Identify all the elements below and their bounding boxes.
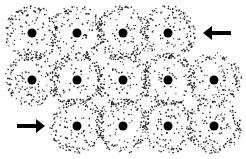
- electron-dot: [150, 63, 151, 64]
- electron-dot: [56, 45, 58, 47]
- electron-dot: [184, 19, 186, 21]
- electron-dot: [180, 13, 181, 14]
- electron-dot: [110, 18, 111, 19]
- electron-dot: [92, 109, 93, 110]
- electron-dot: [202, 113, 204, 115]
- electron-dot: [120, 44, 121, 45]
- electron-dot: [68, 146, 70, 148]
- electron-dot: [199, 135, 201, 137]
- electron-dot: [171, 44, 172, 45]
- electron-dot: [65, 103, 66, 104]
- electron-dot: [61, 65, 62, 66]
- electron-dot: [132, 104, 133, 105]
- electron-dot: [155, 25, 157, 27]
- electron-dot: [219, 133, 221, 135]
- electron-dot: [240, 76, 242, 78]
- electron-dot: [161, 134, 163, 136]
- electron-dot: [102, 115, 103, 116]
- electron-dot: [67, 20, 68, 21]
- electron-dot: [116, 19, 117, 20]
- electron-dot: [129, 122, 130, 123]
- electron-dot: [103, 113, 105, 115]
- electron-dot: [190, 137, 192, 139]
- electron-dot: [239, 119, 241, 121]
- electron-dot: [98, 66, 100, 68]
- electron-dot: [74, 41, 75, 42]
- electron-dot: [26, 95, 28, 97]
- electron-dot: [115, 6, 116, 7]
- electron-dot: [74, 6, 75, 7]
- electron-dot: [103, 15, 105, 17]
- electron-dot: [156, 106, 157, 107]
- electron-dot: [102, 38, 103, 39]
- electron-dot: [140, 99, 141, 100]
- electron-dot: [167, 109, 169, 111]
- electron-dot: [143, 79, 144, 80]
- electron-dot: [123, 105, 124, 106]
- electron-dot: [146, 22, 147, 23]
- electron-dot: [73, 100, 75, 102]
- electron-dot: [22, 77, 24, 79]
- atom: [140, 5, 195, 61]
- electron-dot: [83, 35, 84, 36]
- electron-dot: [115, 128, 117, 130]
- electron-dot: [110, 124, 112, 126]
- electron-dot: [160, 81, 162, 83]
- electron-dot: [180, 143, 182, 145]
- electron-dot: [182, 64, 184, 66]
- electron-dot: [58, 99, 60, 101]
- electron-dot: [64, 8, 65, 9]
- electron-dot: [13, 50, 14, 51]
- electron-dot: [140, 141, 141, 142]
- electron-dot: [59, 32, 60, 33]
- electron-dot: [124, 40, 126, 42]
- electron-dot: [146, 85, 147, 86]
- electron-dot: [43, 38, 44, 39]
- electron-dot: [233, 133, 235, 135]
- electron-dot: [18, 59, 20, 61]
- electron-dot: [203, 98, 205, 100]
- electron-dot: [95, 110, 97, 112]
- electron-dot: [60, 100, 62, 102]
- electron-dot: [100, 76, 102, 78]
- electron-dot: [156, 91, 157, 92]
- electron-dot: [220, 83, 221, 84]
- electron-dot: [54, 75, 56, 77]
- electron-dot: [40, 57, 42, 59]
- electron-dot: [163, 105, 164, 106]
- electron-dot: [119, 7, 120, 8]
- electron-dot: [217, 87, 219, 89]
- electron-dot: [236, 68, 237, 69]
- electron-dot: [174, 76, 176, 78]
- electron-dot: [189, 112, 190, 113]
- electron-dot: [86, 86, 87, 87]
- electron-dot: [131, 16, 133, 18]
- electron-dot: [219, 146, 220, 147]
- electron-dot: [147, 62, 149, 64]
- electron-dot: [9, 35, 11, 37]
- electron-dot: [145, 131, 146, 132]
- electron-dot: [125, 146, 126, 147]
- electron-dot: [156, 125, 157, 126]
- electron-dot: [93, 145, 94, 146]
- electron-dot: [229, 101, 230, 102]
- electron-dot: [44, 61, 46, 63]
- electron-dot: [144, 19, 145, 20]
- electron-dot: [229, 145, 230, 146]
- electron-dot: [149, 45, 151, 47]
- electron-dot: [193, 25, 195, 27]
- electron-dot: [117, 102, 119, 104]
- electron-dot: [83, 85, 85, 87]
- electron-dot: [207, 56, 209, 58]
- electron-dot: [155, 56, 156, 57]
- electron-dot: [10, 21, 11, 22]
- electron-dot: [15, 77, 16, 78]
- electron-dot: [86, 51, 88, 53]
- electron-dot: [42, 22, 44, 24]
- electron-dot: [92, 25, 93, 26]
- electron-dot: [111, 10, 112, 11]
- electron-dot: [179, 14, 181, 16]
- electron-dot: [218, 66, 219, 67]
- electron-dot: [15, 59, 16, 60]
- electron-dot: [53, 69, 55, 71]
